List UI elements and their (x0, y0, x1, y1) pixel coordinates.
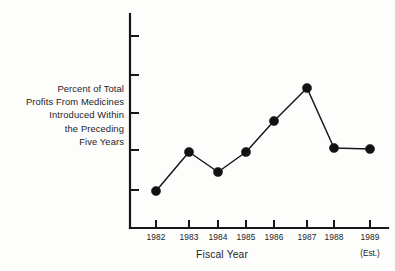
estimate-note: (Est.) (360, 249, 380, 258)
y-axis-title-line: Five Years (12, 135, 124, 148)
data-point-marker (302, 83, 311, 92)
x-axis-tick-label: 1985 (236, 232, 255, 242)
line-chart-figure: Percent of Total Profits From Medicines … (0, 0, 395, 271)
x-axis-tick-label: 1984 (208, 232, 227, 242)
chart-page: Percent of Total Profits From Medicines … (0, 0, 395, 271)
x-axis-tick-label: 1988 (324, 232, 343, 242)
data-point-marker (241, 147, 250, 156)
y-axis-ticks (130, 36, 139, 190)
x-axis-title: Fiscal Year (196, 249, 248, 260)
axes-group (130, 14, 388, 228)
data-point-marker (365, 144, 374, 153)
data-point-marker (269, 116, 278, 125)
y-axis-title-line: Percent of Total (12, 82, 124, 95)
x-axis-ticks (156, 220, 370, 228)
y-axis-title-line: Introduced Within (12, 108, 124, 121)
data-point-marker (184, 147, 193, 156)
data-point-marker (213, 167, 222, 176)
y-axis-title-line: the Preceding (12, 122, 124, 135)
data-point-markers (151, 83, 374, 195)
x-axis-tick-label: 1987 (297, 232, 316, 242)
x-axis-tick-label: 1989 (360, 232, 379, 242)
y-axis-title-line: Profits From Medicines (12, 95, 124, 108)
data-point-marker (329, 143, 338, 152)
data-point-marker (151, 186, 160, 195)
x-axis-tick-label: 1982 (146, 232, 165, 242)
x-axis-tick-label: 1983 (179, 232, 198, 242)
data-series-line (156, 88, 370, 191)
x-axis-tick-label: 1986 (264, 232, 283, 242)
y-axis-title: Percent of Total Profits From Medicines … (12, 82, 124, 148)
